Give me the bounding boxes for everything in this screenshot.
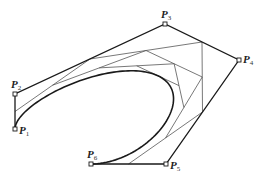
bezier-diagram: P1P2P3P4P5P6 (0, 0, 262, 180)
construction-lines (15, 42, 203, 164)
control-point-marker (163, 22, 167, 26)
bezier-curve (15, 71, 174, 164)
control-point-marker (164, 162, 168, 166)
control-polygon (15, 24, 239, 164)
control-point-label: P6 (87, 148, 98, 162)
control-point-label: P3 (161, 8, 172, 22)
control-point-label: P1 (19, 124, 30, 138)
control-point-marker (237, 58, 241, 62)
construction-polyline (15, 42, 203, 164)
control-points (13, 22, 241, 166)
control-point-marker (13, 92, 17, 96)
control-point-label: P2 (11, 78, 22, 92)
control-point-label: P5 (170, 159, 181, 173)
control-point-marker (89, 162, 93, 166)
control-point-marker (13, 127, 17, 131)
construction-polyline (99, 64, 184, 108)
construction-polyline (53, 51, 203, 139)
control-point-label: P4 (243, 53, 254, 67)
